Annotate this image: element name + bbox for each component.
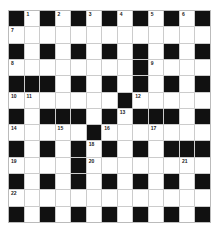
crossword-cell[interactable] [133, 190, 148, 205]
crossword-cell[interactable] [102, 93, 117, 108]
crossword-cell[interactable] [118, 76, 133, 91]
crossword-cell[interactable] [71, 93, 86, 108]
crossword-cell[interactable] [180, 190, 195, 205]
crossword-cell[interactable] [164, 60, 179, 75]
crossword-cell[interactable]: 15 [56, 125, 71, 140]
crossword-cell[interactable]: 4 [118, 11, 133, 26]
crossword-cell[interactable] [118, 158, 133, 173]
crossword-cell[interactable] [56, 27, 71, 42]
crossword-cell[interactable]: 10 [9, 93, 24, 108]
crossword-cell[interactable]: 6 [180, 11, 195, 26]
crossword-cell[interactable] [40, 27, 55, 42]
crossword-cell[interactable] [164, 190, 179, 205]
crossword-cell[interactable] [25, 190, 40, 205]
crossword-cell[interactable] [195, 158, 210, 173]
crossword-cell[interactable] [87, 207, 102, 222]
crossword-cell[interactable] [118, 60, 133, 75]
crossword-cell[interactable] [195, 190, 210, 205]
crossword-cell[interactable]: 18 [87, 141, 102, 156]
crossword-cell[interactable]: 7 [9, 27, 24, 42]
crossword-cell[interactable] [118, 44, 133, 59]
crossword-cell[interactable] [180, 27, 195, 42]
crossword-cell[interactable] [87, 27, 102, 42]
crossword-cell[interactable] [164, 125, 179, 140]
crossword-cell[interactable]: 17 [149, 125, 164, 140]
crossword-cell[interactable] [25, 125, 40, 140]
crossword-cell[interactable] [56, 174, 71, 189]
crossword-cell[interactable] [25, 207, 40, 222]
crossword-cell[interactable] [180, 44, 195, 59]
crossword-cell[interactable] [133, 27, 148, 42]
crossword-cell[interactable] [25, 27, 40, 42]
crossword-cell[interactable] [87, 93, 102, 108]
crossword-cell[interactable]: 19 [9, 158, 24, 173]
crossword-cell[interactable] [164, 158, 179, 173]
crossword-cell[interactable] [40, 158, 55, 173]
crossword-cell[interactable] [40, 60, 55, 75]
crossword-cell[interactable] [180, 174, 195, 189]
crossword-cell[interactable]: 13 [118, 109, 133, 124]
crossword-cell[interactable]: 1 [25, 11, 40, 26]
crossword-cell[interactable] [149, 207, 164, 222]
crossword-cell[interactable] [149, 44, 164, 59]
crossword-cell[interactable]: 14 [9, 125, 24, 140]
crossword-cell[interactable]: 2 [56, 11, 71, 26]
crossword-cell[interactable] [25, 60, 40, 75]
crossword-cell[interactable] [40, 125, 55, 140]
crossword-cell[interactable] [25, 44, 40, 59]
crossword-cell[interactable] [40, 93, 55, 108]
crossword-cell[interactable] [87, 174, 102, 189]
crossword-cell[interactable] [71, 60, 86, 75]
crossword-cell[interactable] [118, 190, 133, 205]
crossword-cell[interactable] [25, 174, 40, 189]
crossword-cell[interactable]: 5 [149, 11, 164, 26]
crossword-cell[interactable] [87, 76, 102, 91]
crossword-cell[interactable] [102, 27, 117, 42]
crossword-cell[interactable] [149, 93, 164, 108]
crossword-cell[interactable] [71, 190, 86, 205]
crossword-cell[interactable] [25, 158, 40, 173]
crossword-cell[interactable]: 22 [9, 190, 24, 205]
crossword-cell[interactable] [25, 109, 40, 124]
crossword-cell[interactable] [195, 60, 210, 75]
crossword-cell[interactable] [56, 158, 71, 173]
crossword-cell[interactable] [118, 125, 133, 140]
crossword-cell[interactable] [40, 190, 55, 205]
crossword-cell[interactable] [118, 141, 133, 156]
crossword-cell[interactable] [180, 60, 195, 75]
crossword-cell[interactable]: 21 [180, 158, 195, 173]
crossword-cell[interactable] [102, 158, 117, 173]
crossword-cell[interactable] [149, 174, 164, 189]
crossword-cell[interactable] [180, 93, 195, 108]
crossword-cell[interactable]: 16 [102, 125, 117, 140]
crossword-cell[interactable] [149, 141, 164, 156]
crossword-cell[interactable] [56, 44, 71, 59]
crossword-cell[interactable]: 8 [9, 60, 24, 75]
crossword-cell[interactable] [164, 27, 179, 42]
crossword-cell[interactable] [149, 158, 164, 173]
crossword-cell[interactable] [133, 158, 148, 173]
crossword-cell[interactable]: 9 [149, 60, 164, 75]
crossword-cell[interactable] [118, 174, 133, 189]
crossword-cell[interactable] [71, 27, 86, 42]
crossword-cell[interactable] [118, 207, 133, 222]
crossword-cell[interactable] [180, 109, 195, 124]
crossword-cell[interactable] [56, 93, 71, 108]
crossword-cell[interactable] [56, 76, 71, 91]
crossword-cell[interactable] [164, 93, 179, 108]
crossword-cell[interactable]: 20 [87, 158, 102, 173]
crossword-cell[interactable] [102, 190, 117, 205]
crossword-cell[interactable]: 11 [25, 93, 40, 108]
crossword-cell[interactable] [195, 27, 210, 42]
crossword-cell[interactable] [149, 27, 164, 42]
crossword-cell[interactable] [149, 190, 164, 205]
crossword-cell[interactable] [180, 207, 195, 222]
crossword-cell[interactable] [87, 44, 102, 59]
crossword-cell[interactable] [56, 190, 71, 205]
crossword-cell[interactable] [149, 76, 164, 91]
crossword-cell[interactable] [133, 125, 148, 140]
crossword-cell[interactable] [195, 93, 210, 108]
crossword-cell[interactable] [87, 60, 102, 75]
crossword-cell[interactable]: 12 [133, 93, 148, 108]
crossword-cell[interactable]: 3 [87, 11, 102, 26]
